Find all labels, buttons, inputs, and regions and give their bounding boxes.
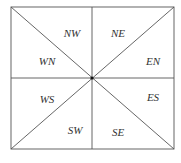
region-label-nw: NW (63, 27, 81, 39)
center-point (90, 76, 93, 79)
octant-diagram: NW NE WN EN WS ES SW SE (0, 0, 181, 163)
region-label-ne: NE (110, 27, 125, 39)
region-label-se: SE (112, 126, 125, 138)
region-label-sw: SW (68, 124, 84, 136)
region-label-es: ES (146, 91, 160, 103)
region-label-en: EN (145, 55, 161, 67)
region-label-ws: WS (40, 93, 55, 105)
region-label-wn: WN (39, 55, 56, 67)
